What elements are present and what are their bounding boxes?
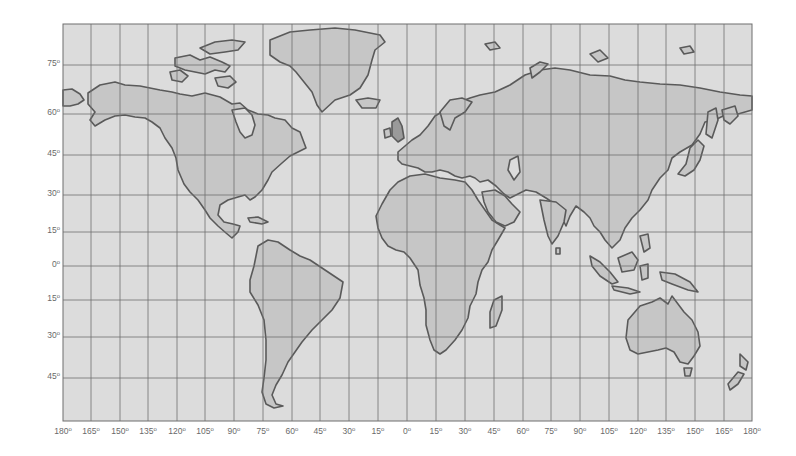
- longitude-label: 120o: [623, 426, 653, 436]
- longitude-label: 150o: [680, 426, 710, 436]
- longitude-label: 30o: [334, 426, 364, 436]
- latitude-label: 60o: [30, 107, 60, 117]
- longitude-label: 90o: [219, 426, 249, 436]
- latitude-label: 30o: [30, 188, 60, 198]
- longitude-label: 180o: [48, 426, 78, 436]
- longitude-label: 45o: [305, 426, 335, 436]
- latitude-label: 30o: [30, 330, 60, 340]
- longitude-label: 60o: [508, 426, 538, 436]
- land-tasmania: [684, 368, 692, 376]
- latitude-label: 15o: [30, 225, 60, 235]
- longitude-label: 135o: [651, 426, 681, 436]
- longitude-label: 15o: [421, 426, 451, 436]
- land-sri-lanka: [556, 248, 560, 254]
- latitude-label: 0o: [30, 259, 60, 269]
- longitude-label: 105o: [190, 426, 220, 436]
- longitude-label: 30o: [450, 426, 480, 436]
- longitude-label: 45o: [479, 426, 509, 436]
- longitude-label: 135o: [133, 426, 163, 436]
- longitude-label: 120o: [162, 426, 192, 436]
- world-map: [0, 0, 796, 456]
- longitude-label: 75o: [248, 426, 278, 436]
- longitude-label: 15o: [363, 426, 393, 436]
- longitude-label: 165o: [709, 426, 739, 436]
- latitude-label: 75o: [30, 58, 60, 68]
- longitude-label: 75o: [536, 426, 566, 436]
- latitude-label: 15o: [30, 293, 60, 303]
- longitude-label: 105o: [594, 426, 624, 436]
- longitude-label: 90o: [565, 426, 595, 436]
- longitude-label: 60o: [277, 426, 307, 436]
- longitude-label: 0o: [392, 426, 422, 436]
- longitude-label: 165o: [76, 426, 106, 436]
- longitude-label: 150o: [105, 426, 135, 436]
- latitude-label: 45o: [30, 371, 60, 381]
- land-ireland: [384, 128, 391, 138]
- longitude-label: 180o: [737, 426, 767, 436]
- latitude-label: 45o: [30, 148, 60, 158]
